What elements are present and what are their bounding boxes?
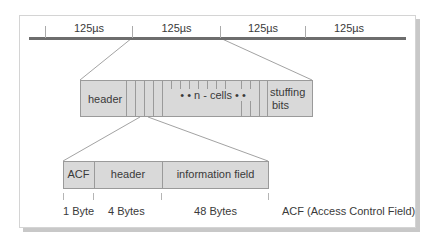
size-tick [268,193,269,200]
header-size-label: 4 Bytes [108,205,145,217]
size-tick [161,193,162,200]
frame-header-label: header [88,93,122,105]
timeline-slot-label: 125µs [133,22,220,34]
information-field-label: information field [162,168,269,180]
timeline-slot-label: 125µs [306,22,392,34]
cell-header-label: header [94,168,162,180]
n-cells-label: • • n - cells • • [168,89,258,101]
timeline-bar [29,37,406,40]
stuffing-bits-label: bits [272,99,289,111]
stuffing-bits-label: stuffing [270,86,305,98]
acf-size-label: 1 Byte [63,205,94,217]
info-size-label: 48 Bytes [162,205,269,217]
size-tick [63,193,64,200]
acf-legend: ACF (Access Control Field) [282,205,415,217]
acf-label: ACF [63,168,94,180]
timeline-slot-label: 125µs [46,22,132,34]
size-tick [93,193,94,200]
timeline-slot-label: 125µs [221,22,305,34]
